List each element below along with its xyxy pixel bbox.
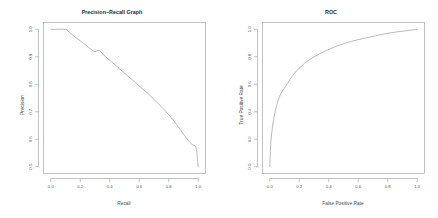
plot-frame — [263, 23, 425, 174]
roc-curve — [270, 29, 417, 166]
x-tick-label: 0.4 — [107, 184, 114, 189]
x-axis: 0.00.20.40.60.81.0 — [267, 179, 421, 190]
y-tick-label: 0.8 — [28, 81, 33, 88]
x-tick-label: 0.2 — [296, 184, 303, 189]
y-tick-label: 0.7 — [28, 108, 33, 115]
y-tick-label: 0.9 — [28, 53, 33, 60]
y-tick-label: 0.0 — [247, 163, 252, 170]
x-tick-label: 1.0 — [414, 184, 421, 189]
y-tick-label: 0.5 — [28, 163, 33, 170]
y-tick-label: 0.2 — [247, 136, 252, 143]
plot-title: ROC — [325, 9, 337, 15]
x-axis: 0.00.20.40.60.81.0 — [48, 179, 202, 190]
plot-title: Precision−Recall Graph — [82, 9, 143, 15]
roc-plot: ROC 0.00.20.40.60.81.0 0.00.20.40.60.81.… — [219, 0, 438, 218]
x-axis-title: Recall — [117, 201, 130, 206]
x-tick-label: 0.4 — [326, 184, 333, 189]
plot-frame — [44, 23, 206, 174]
panel-roc: ROC 0.00.20.40.60.81.0 0.00.20.40.60.81.… — [219, 0, 438, 218]
figure-container: Precision−Recall Graph 0.00.20.40.60.81.… — [0, 0, 438, 218]
x-tick-label: 1.0 — [195, 184, 202, 189]
y-axis-title: True Positive Rate — [239, 85, 244, 125]
precision-recall-plot: Precision−Recall Graph 0.00.20.40.60.81.… — [0, 0, 219, 218]
y-tick-label: 0.6 — [247, 81, 252, 88]
y-axis-title: Precision — [20, 95, 25, 115]
x-tick-label: 0.2 — [77, 184, 84, 189]
precision-recall-curve — [51, 29, 198, 166]
x-tick-label: 0.6 — [136, 184, 143, 189]
panel-precision-recall: Precision−Recall Graph 0.00.20.40.60.81.… — [0, 0, 219, 218]
y-tick-label: 1.0 — [247, 26, 252, 33]
y-tick-label: 0.8 — [247, 53, 252, 60]
x-axis-title: False Positive Rate — [322, 201, 364, 206]
x-tick-label: 0.0 — [48, 184, 55, 189]
y-tick-label: 0.4 — [247, 108, 252, 115]
x-tick-label: 0.6 — [355, 184, 362, 189]
y-axis: 0.50.60.70.80.91.0 — [28, 26, 39, 170]
x-tick-label: 0.0 — [267, 184, 274, 189]
y-tick-label: 0.6 — [28, 136, 33, 143]
x-tick-label: 0.8 — [385, 184, 392, 189]
y-axis: 0.00.20.40.60.81.0 — [247, 26, 258, 170]
y-tick-label: 1.0 — [28, 26, 33, 33]
x-tick-label: 0.8 — [166, 184, 173, 189]
